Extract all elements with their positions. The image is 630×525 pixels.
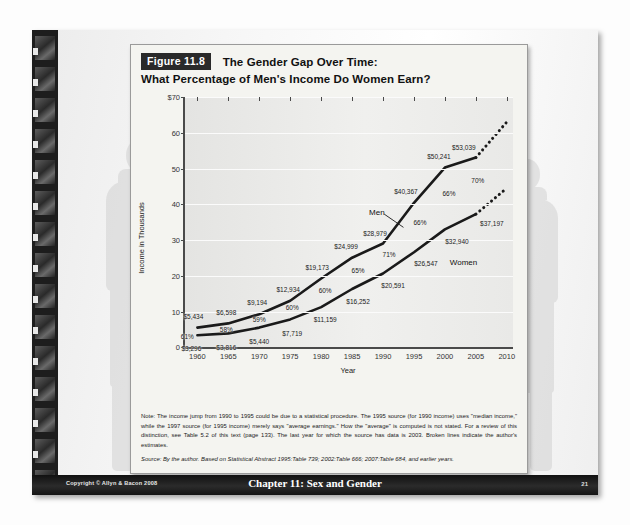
data-label-men: $50,241 [427,152,451,159]
y-axis-tick-mark [181,169,185,170]
x-axis-tick-mark [228,97,229,101]
film-frame [35,191,55,215]
y-axis-tick-mark [181,133,185,134]
data-label-women: $5,440 [249,337,269,344]
x-axis-tick-label: 1985 [344,352,361,361]
x-axis-tick-mark [414,97,415,101]
film-perforation [33,79,38,86]
data-label-women: $32,940 [445,237,469,244]
data-label-women: $3,816 [216,343,236,350]
film-frame [35,377,55,401]
film-frame [35,129,55,153]
y-axis-tick-label: 0 [176,343,180,352]
ratio-label: 60% [286,304,299,311]
x-axis-tick-mark [507,97,508,101]
y-axis-tick-label: 40 [172,200,180,209]
x-axis-tick-label: 2010 [498,352,515,361]
presentation-slide: Figure 11.8 The Gender Gap Over Time: Wh… [32,30,598,495]
film-frame [35,36,55,60]
figure-header: Figure 11.8 The Gender Gap Over Time: Wh… [131,45,527,91]
film-perforation [33,327,38,334]
x-axis-tick-label: 2000 [437,352,454,361]
x-axis-tick-mark [259,97,260,101]
x-axis-tick-label: 1990 [375,352,392,361]
y-axis-tick-mark [181,240,185,241]
film-perforation [33,420,38,427]
grid-line [185,204,513,205]
y-axis-tick-label: 60 [172,128,180,137]
page-number: 21 [581,481,588,487]
y-axis-tick-label: 20 [172,271,180,280]
film-strip-decoration [32,30,58,495]
x-axis-tick-label: 1965 [220,352,237,361]
x-axis-tick-mark [352,97,353,101]
y-axis-tick-label: 10 [172,307,180,316]
data-label-men: $53,039 [452,143,476,150]
x-axis-tick-mark [321,97,322,101]
chart-area: Income in Thousands 0102030405060$701960… [139,93,519,383]
ratio-label: 61% [181,332,194,339]
data-label-men: $5,434 [183,312,203,319]
film-frame [35,253,55,277]
y-axis-tick-label: $70 [167,93,180,102]
y-axis-tick-mark [181,276,185,277]
x-axis-tick-mark [197,97,198,101]
x-axis-tick-label: 1975 [282,352,299,361]
film-perforation [33,141,38,148]
x-axis-tick-label: 1970 [251,352,268,361]
series-line-women-estimated [476,188,507,214]
x-axis-tick-mark [476,97,477,101]
x-axis-tick-mark [383,97,384,101]
film-perforation [33,389,38,396]
film-perforation [33,234,38,241]
film-frame [35,284,55,308]
note-text: Note: The income jump from 1990 to 1995 … [141,412,517,450]
data-label-men: $6,598 [216,308,236,315]
data-label-women: $7,719 [282,329,302,336]
y-axis-tick-mark [181,97,185,98]
y-axis-label: Income in Thousands [137,202,146,274]
ratio-label: 66% [413,218,426,225]
y-axis-tick-mark [181,204,185,205]
ratio-label: 70% [471,177,484,184]
ratio-label: 71% [383,250,396,257]
film-frame [35,346,55,370]
figure-number-badge: Figure 11.8 [141,53,211,70]
ratio-label: 60% [319,287,332,294]
data-label-men: $19,173 [305,263,329,270]
data-label-men: $12,934 [276,286,300,293]
data-label-women: $37,197 [480,220,504,227]
film-frame [35,222,55,246]
film-frame [35,408,55,432]
data-label-men: $28,979 [363,229,387,236]
film-perforation [33,172,38,179]
ratio-label: 58% [220,325,233,332]
data-label-women: $26,547 [414,260,438,267]
film-perforation [33,296,38,303]
ratio-label: 59% [253,316,266,323]
film-frame [35,315,55,339]
film-perforation [33,48,38,55]
series-annotation-women: Women [450,257,477,266]
film-frame [35,67,55,91]
film-perforation [33,451,38,458]
grid-line [185,133,513,134]
data-label-men: $24,999 [334,242,358,249]
film-perforation [33,265,38,272]
series-line-men-estimated [476,122,507,158]
series-annotation-men: Men [369,207,385,216]
data-label-men: $9,194 [247,299,267,306]
film-frame [35,160,55,184]
plot-canvas: 0102030405060$70196019651970197519801985… [183,97,513,349]
figure-card: Figure 11.8 The Gender Gap Over Time: Wh… [130,44,528,474]
data-label-women: $16,252 [346,298,370,305]
x-axis-tick-mark [445,97,446,101]
x-axis-tick-label: 1960 [189,352,206,361]
figure-title-line-1: The Gender Gap Over Time: [223,56,378,68]
x-axis-tick-label: 1995 [406,352,423,361]
x-axis-tick-mark [290,97,291,101]
slide-footer: Copyright © Allyn & Bacon 2008 Chapter 1… [32,475,598,495]
film-frame [35,98,55,122]
film-perforation [33,203,38,210]
source-text: Source: By the author. Based on Statisti… [141,455,517,465]
